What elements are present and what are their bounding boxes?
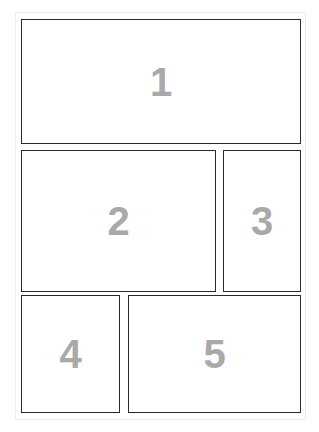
panel-5: 5: [128, 295, 301, 413]
panel-number: 1: [150, 62, 172, 102]
panel-number: 5: [203, 334, 225, 374]
panel-number: 4: [59, 334, 81, 374]
panel-number: 2: [107, 201, 129, 241]
panel-4: 4: [21, 295, 120, 413]
panel-3: 3: [223, 150, 301, 292]
panel-2: 2: [21, 150, 216, 292]
panel-number: 3: [251, 201, 273, 241]
panel-1: 1: [21, 19, 301, 144]
